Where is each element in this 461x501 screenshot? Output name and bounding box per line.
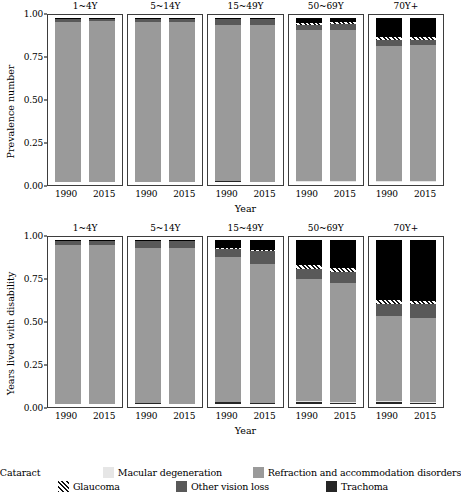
- x-tick-label-1990: 1990: [212, 187, 241, 203]
- x-axis-title-prevalence: Year: [47, 203, 444, 214]
- x-tick-label-1990: 1990: [212, 409, 241, 425]
- facet-label-1549Y: 15~49Y: [207, 0, 283, 13]
- legend-item-trachoma[interactable]: Trachoma: [326, 481, 388, 492]
- panel-5069Y: [288, 14, 364, 186]
- legend-item-glaucoma[interactable]: Glaucoma: [58, 481, 176, 492]
- bar-segment-trachoma: [330, 181, 356, 182]
- bar-segment-refraction: [330, 283, 356, 402]
- y-axis-ticks-ylds: 0.000.250.500.751.00: [17, 236, 47, 408]
- legend-label-other_vision_loss: Other vision loss: [191, 481, 269, 492]
- legend-label-glaucoma: Glaucoma: [73, 481, 120, 492]
- x-tick-label-1990: 1990: [132, 409, 161, 425]
- facet-label-5069Y: 50~69Y: [288, 0, 364, 13]
- stacked-bar-2015[interactable]: [330, 18, 356, 182]
- x-axis-ticks: 19902015: [368, 187, 444, 203]
- stacked-bar-2015[interactable]: [410, 18, 436, 182]
- y-tick-label: 0.75: [24, 274, 43, 284]
- stacked-bar-1990[interactable]: [215, 240, 241, 404]
- bar-segment-other_vision_loss: [215, 249, 241, 257]
- plot-area: [369, 15, 443, 185]
- chart-ylds: Years lived with disability 0.000.250.50…: [0, 222, 446, 444]
- bar-segment-macular_degeneration: [410, 402, 436, 403]
- legend-label-refraction: Refraction and accommodation disorders: [268, 467, 461, 478]
- facet-label-5069Y: 50~69Y: [288, 222, 364, 235]
- x-axis-ticks: 19902015: [368, 409, 444, 425]
- bar-segment-other_vision_loss: [410, 40, 436, 45]
- bar-segment-other_vision_loss: [330, 272, 356, 283]
- panel-grid-ylds: 1~4Y199020155~14Y1990201515~49Y199020155…: [47, 222, 444, 444]
- bar-segment-glaucoma: [215, 248, 241, 249]
- bar-segment-trachoma: [296, 181, 322, 182]
- bar-segment-refraction: [55, 22, 81, 182]
- bar-segment-trachoma: [296, 402, 322, 404]
- bar-segment-cataract: [250, 240, 276, 250]
- x-tick-label-1990: 1990: [132, 187, 161, 203]
- x-axis-ticks: 19902015: [207, 409, 283, 425]
- bar-segment-refraction: [376, 316, 402, 401]
- x-tick-label-1990: 1990: [52, 409, 81, 425]
- x-axis-ticks: 19902015: [288, 187, 364, 203]
- stacked-bar-1990[interactable]: [296, 18, 322, 182]
- legend-item-other_vision_loss[interactable]: Other vision loss: [176, 481, 326, 492]
- stacked-bar-1990[interactable]: [215, 18, 241, 182]
- bar-segment-other_vision_loss: [410, 304, 436, 318]
- stacked-bar-1990[interactable]: [135, 18, 161, 182]
- plot-area: [128, 237, 202, 407]
- stacked-bar-2015[interactable]: [169, 18, 195, 182]
- bar-segment-cataract: [330, 18, 356, 22]
- legend: CataractMacular degenerationRefraction a…: [0, 459, 446, 499]
- stacked-bar-2015[interactable]: [89, 240, 115, 404]
- bar-segment-trachoma: [376, 181, 402, 182]
- bar-segment-macular_degeneration: [376, 181, 402, 182]
- x-axis-ticks: 19902015: [207, 187, 283, 203]
- plot-area: [289, 237, 363, 407]
- x-tick-label-1990: 1990: [52, 187, 81, 203]
- stacked-bar-2015[interactable]: [169, 240, 195, 404]
- bar-segment-trachoma: [330, 402, 356, 404]
- bar-segment-refraction: [215, 25, 241, 181]
- bar-segment-refraction: [89, 245, 115, 404]
- legend-item-refraction[interactable]: Refraction and accommodation disorders: [253, 467, 461, 478]
- panel-grid-prevalence: 1~4Y199020155~14Y1990201515~49Y199020155…: [47, 0, 444, 222]
- bar-segment-other_vision_loss: [296, 25, 322, 31]
- stacked-bar-2015[interactable]: [250, 18, 276, 182]
- panel-70Y: [368, 14, 444, 186]
- stacked-bar-1990[interactable]: [135, 240, 161, 404]
- facet-label-514Y: 5~14Y: [127, 222, 203, 235]
- x-axis-ticks: 19902015: [127, 409, 203, 425]
- x-tick-label-1990: 1990: [292, 409, 321, 425]
- bar-segment-glaucoma: [330, 268, 356, 272]
- stacked-bar-1990[interactable]: [376, 18, 402, 182]
- x-tick-label-2015: 2015: [90, 409, 119, 425]
- facet-label-70Y: 70Y+: [368, 0, 444, 13]
- plot-area: [48, 15, 122, 185]
- x-tick-label-1990: 1990: [292, 187, 321, 203]
- bar-segment-macular_degeneration: [410, 181, 436, 182]
- stacked-bar-1990[interactable]: [296, 240, 322, 404]
- panel-5069Y: [288, 236, 364, 408]
- panel-514Y: [127, 14, 203, 186]
- bar-segment-trachoma: [376, 402, 402, 404]
- facet-label-14Y: 1~4Y: [47, 0, 123, 13]
- stacked-bar-2015[interactable]: [330, 240, 356, 404]
- stacked-bar-2015[interactable]: [89, 18, 115, 182]
- legend-item-cataract[interactable]: Cataract: [0, 467, 103, 478]
- panel-14Y: [47, 14, 123, 186]
- bar-segment-refraction: [215, 257, 241, 402]
- facet-label-14Y: 1~4Y: [47, 222, 123, 235]
- stacked-bar-1990[interactable]: [55, 240, 81, 404]
- x-axis-ticks: 19902015: [127, 187, 203, 203]
- legend-item-macular_degeneration[interactable]: Macular degeneration: [103, 467, 253, 478]
- stacked-bar-2015[interactable]: [410, 240, 436, 404]
- bar-segment-cataract: [89, 240, 115, 241]
- bar-segment-other_vision_loss: [55, 241, 81, 246]
- stacked-bar-1990[interactable]: [376, 240, 402, 404]
- legend-swatch-glaucoma: [58, 481, 69, 492]
- bar-segment-refraction: [410, 318, 436, 401]
- bar-segment-refraction: [410, 45, 436, 181]
- bar-segment-trachoma: [169, 403, 195, 404]
- stacked-bar-2015[interactable]: [250, 240, 276, 404]
- bar-segment-trachoma: [135, 403, 161, 404]
- stacked-bar-1990[interactable]: [55, 18, 81, 182]
